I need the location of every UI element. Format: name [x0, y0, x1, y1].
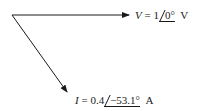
voltage-unit: V: [180, 9, 188, 21]
current-equals: =: [81, 94, 87, 106]
current-angle-value: −53.1°: [110, 94, 140, 106]
current-angle: −53.1°: [104, 95, 140, 107]
voltage-equals: =: [144, 9, 150, 21]
voltage-angle: 0°: [159, 10, 175, 22]
current-symbol: I: [75, 94, 79, 106]
current-magnitude: 0.4: [90, 94, 104, 106]
voltage-phasor-label: V = 10° V: [135, 9, 188, 22]
current-unit: A: [146, 94, 154, 106]
voltage-symbol: V: [135, 9, 142, 21]
current-phasor-arrow: [12, 15, 67, 92]
current-phasor-label: I = 0.4−53.1° A: [75, 94, 153, 107]
voltage-angle-value: 0°: [165, 9, 175, 21]
